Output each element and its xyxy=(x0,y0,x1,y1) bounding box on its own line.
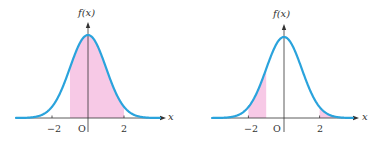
y-axis-arrow-icon xyxy=(86,22,90,28)
normal-curve-plot-right xyxy=(191,0,382,142)
y-axis-arrow-icon xyxy=(282,24,286,30)
tick-label-neg2: −2 xyxy=(47,124,61,134)
chart-panel-right: f(x) x O −2 2 xyxy=(191,0,382,142)
density-curve xyxy=(212,37,353,118)
y-axis-label: f(x) xyxy=(78,8,95,18)
chart-panel-left: f(x) x O −2 2 xyxy=(0,0,191,142)
tick-label-2: 2 xyxy=(317,124,323,134)
x-axis-label: x xyxy=(362,112,368,122)
tick-label-neg2: −2 xyxy=(244,124,258,134)
y-axis-label: f(x) xyxy=(273,9,290,19)
x-axis-label: x xyxy=(168,112,174,122)
tick-label-2: 2 xyxy=(121,124,127,134)
origin-label: O xyxy=(78,124,86,134)
normal-curve-plot-left xyxy=(0,0,191,142)
origin-label: O xyxy=(273,124,281,134)
